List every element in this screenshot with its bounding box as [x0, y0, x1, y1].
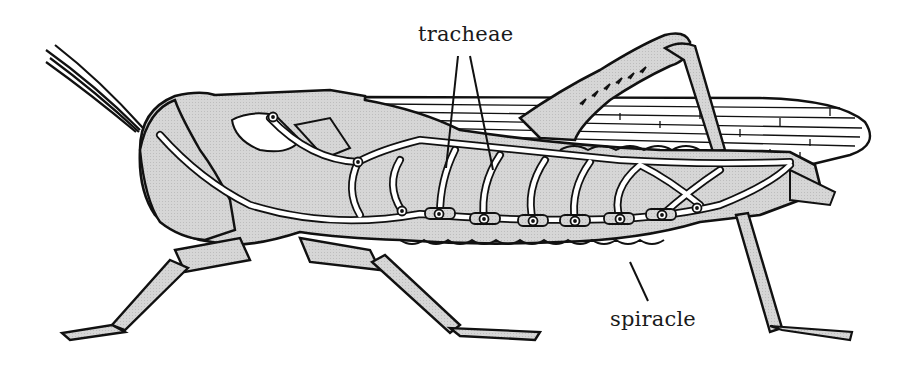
antennae	[46, 45, 143, 132]
label-tracheae: tracheae	[418, 22, 513, 46]
grasshopper-illustration	[0, 0, 924, 373]
spiracle-leader-line	[630, 262, 648, 301]
grasshopper-diagram: tracheae spiracle	[0, 0, 924, 373]
front-legs	[62, 238, 540, 340]
hind-tibia	[736, 213, 852, 340]
label-spiracle: spiracle	[610, 307, 696, 331]
